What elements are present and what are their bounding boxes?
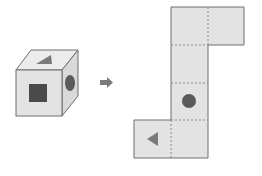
net-cell-r0c1 — [171, 7, 208, 45]
net-cell-r1c1 — [171, 45, 208, 83]
square-symbol-icon — [29, 84, 47, 102]
net-cell-r3c1 — [171, 120, 208, 158]
net-circle-symbol-icon — [182, 94, 196, 108]
circle-symbol-icon — [65, 75, 75, 91]
cube-net-diagram — [0, 0, 262, 176]
cube — [16, 50, 78, 116]
net-cell-r0c2 — [208, 7, 244, 45]
arrow-right-icon — [100, 77, 113, 88]
cube-net — [134, 7, 244, 158]
diagram-canvas — [0, 0, 262, 176]
